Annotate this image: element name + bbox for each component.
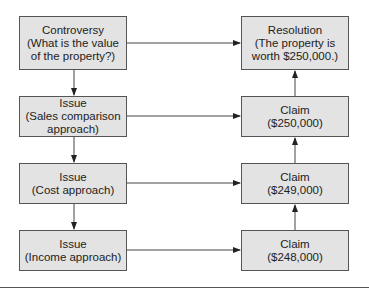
claim-249-box: Claim ($249,000) <box>241 163 349 204</box>
box-line: Resolution <box>268 24 322 37</box>
bottom-divider <box>0 287 369 288</box>
controversy-box: Controversy (What is the value of the pr… <box>19 16 127 70</box>
issue-income-box: Issue (Income approach) <box>19 230 127 271</box>
box-line: (Income approach) <box>25 251 122 264</box>
box-line: Issue <box>59 238 87 251</box>
box-line: approach) <box>47 123 99 136</box>
box-line: Claim <box>280 238 309 251</box>
box-line: (Sales comparison <box>25 110 120 123</box>
box-line: Issue <box>59 171 87 184</box>
box-line: of the property?) <box>31 50 115 63</box>
claim-248-box: Claim ($248,000) <box>241 230 349 271</box>
box-line: ($248,000) <box>267 251 323 264</box>
box-line: (The property is <box>255 37 336 50</box>
box-line: (Cost approach) <box>32 184 114 197</box>
box-line: Claim <box>280 104 309 117</box>
claim-250-box: Claim ($250,000) <box>241 96 349 137</box>
issue-sales-box: Issue (Sales comparison approach) <box>19 96 127 137</box>
box-line: Claim <box>280 171 309 184</box>
box-line: Issue <box>59 97 87 110</box>
resolution-box: Resolution (The property is worth $250,0… <box>241 16 349 70</box>
box-line: (What is the value <box>27 37 119 50</box>
issue-cost-box: Issue (Cost approach) <box>19 163 127 204</box>
box-line: worth $250,000.) <box>252 50 338 63</box>
box-line: ($249,000) <box>267 184 323 197</box>
box-line: Controversy <box>42 24 104 37</box>
box-line: ($250,000) <box>267 117 323 130</box>
